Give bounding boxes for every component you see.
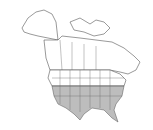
alaska-landmass (22, 10, 58, 40)
canada-landmass (44, 36, 140, 74)
species-range (52, 86, 124, 122)
arctic-islands (70, 18, 110, 36)
range-map (0, 0, 153, 130)
